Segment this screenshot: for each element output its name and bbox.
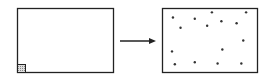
- dot: [179, 27, 181, 29]
- dot: [172, 16, 174, 18]
- right-panel: [163, 9, 258, 73]
- left-panel: [18, 9, 114, 73]
- dot: [242, 39, 244, 41]
- left-box: [18, 9, 114, 73]
- dot: [211, 11, 213, 13]
- dot: [206, 25, 208, 27]
- shaded-square: [18, 65, 26, 73]
- dot: [221, 48, 223, 50]
- dot: [194, 18, 196, 20]
- dot: [235, 22, 237, 24]
- arrow-head: [149, 38, 156, 44]
- diagram: [0, 0, 270, 80]
- dot: [194, 61, 196, 63]
- dot: [174, 63, 176, 65]
- dot: [220, 20, 222, 22]
- dot: [216, 62, 218, 64]
- dot: [240, 62, 242, 64]
- dot: [171, 50, 173, 52]
- dot: [245, 11, 247, 13]
- arrow: [120, 38, 156, 44]
